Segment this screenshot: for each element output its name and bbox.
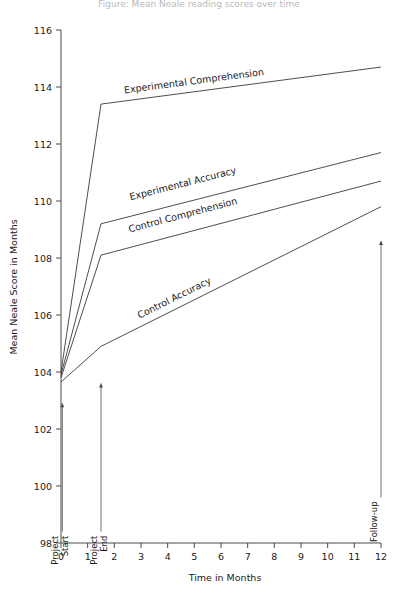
x-tick-label: 12 (375, 551, 387, 562)
series-line-experimental-accuracy (61, 153, 381, 375)
series-line-experimental-comprehension (61, 67, 381, 372)
neale-score-line-chart: Figure: Mean Neale reading scores over t… (0, 0, 399, 600)
x-tick-label: 8 (271, 551, 277, 562)
series-label-control-accuracy: Control Accuracy (136, 275, 213, 321)
annotation-label-project-start: Start (60, 535, 70, 556)
series-line-control-accuracy (61, 207, 381, 382)
y-axis-ticks: 98100102104106108110112114116 (34, 25, 61, 549)
x-tick-label: 10 (322, 551, 334, 562)
x-tick-label: 3 (138, 551, 144, 562)
y-tick-label: 108 (34, 253, 52, 264)
y-tick-label: 100 (34, 481, 52, 492)
y-tick-label: 106 (34, 310, 52, 321)
x-tick-label: 2 (111, 551, 117, 562)
series-line-control-comprehension (61, 181, 381, 378)
series-label-control-comprehension: Control Comprehension (127, 195, 238, 234)
series-label-experimental-accuracy: Experimental Accuracy (128, 164, 237, 202)
y-tick-label: 114 (34, 82, 52, 93)
annotation-label-project-end: End (99, 536, 109, 552)
x-axis-title: Time in Months (188, 572, 262, 583)
x-tick-label: 5 (191, 551, 197, 562)
annotation-arrow-head (379, 241, 383, 245)
y-tick-label: 102 (34, 424, 52, 435)
y-tick-label: 110 (34, 196, 52, 207)
x-tick-label: 4 (165, 551, 171, 562)
series-label-experimental-comprehension: Experimental Comprehension (123, 66, 264, 95)
event-annotations: ProjectStartProjectEndFollow-up (50, 241, 383, 565)
chart-container: Figure: Mean Neale reading scores over t… (0, 0, 399, 600)
annotation-label-follow-up: Follow-up (369, 501, 379, 542)
x-tick-label: 9 (298, 551, 304, 562)
series-labels: Experimental ComprehensionExperimental A… (123, 66, 264, 321)
x-tick-label: 11 (348, 551, 360, 562)
chart-title: Figure: Mean Neale reading scores over t… (98, 0, 300, 9)
x-tick-label: 7 (245, 551, 251, 562)
y-tick-label: 116 (34, 25, 52, 36)
annotation-arrow-head (99, 383, 103, 387)
annotation-label-project-end: Project (89, 535, 99, 565)
y-tick-label: 112 (34, 139, 52, 150)
annotation-label-project-start: Project (50, 535, 60, 565)
series-lines (61, 67, 381, 382)
x-tick-label: 6 (218, 551, 224, 562)
y-axis-title: Mean Neale Score in Months (8, 219, 19, 354)
y-tick-label: 104 (34, 367, 52, 378)
